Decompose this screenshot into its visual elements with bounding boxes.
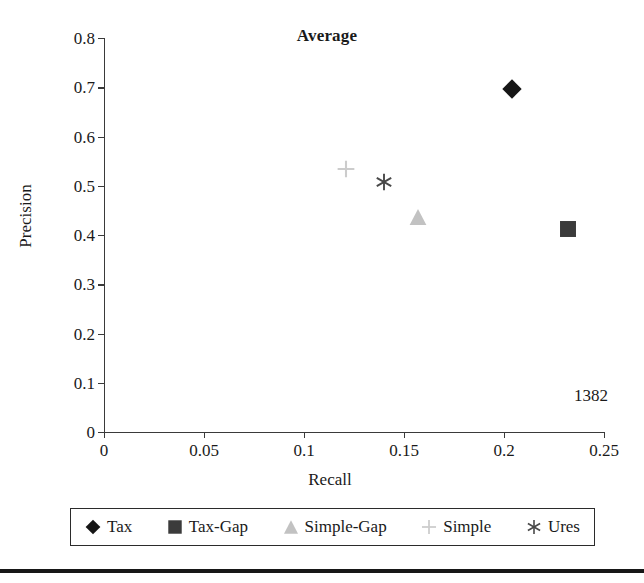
x-axis-tick-label: 0.2 (493, 442, 514, 459)
legend-item-simple-gap[interactable]: Simple-Gap (283, 517, 387, 537)
y-axis-tick (98, 383, 104, 384)
x-axis-tick (404, 432, 405, 438)
x-axis-tick-label: 0 (100, 442, 109, 459)
asterisk-marker-icon (526, 519, 542, 535)
y-axis-tick-label: 0.8 (74, 30, 95, 47)
diamond-marker-icon (85, 519, 101, 535)
legend-item-label: Tax-Gap (189, 517, 248, 537)
y-axis-line (104, 38, 105, 432)
plot-area: 00.10.20.30.40.50.60.70.8 00.050.10.150.… (104, 38, 604, 432)
y-axis-tick-label: 0.1 (74, 374, 95, 391)
legend-item-label: Simple (443, 517, 491, 537)
y-axis-tick-label: 0 (87, 424, 96, 441)
x-axis-tick-label: 0.05 (189, 442, 219, 459)
x-axis-tick-label: 0.25 (589, 442, 619, 459)
legend-item-tax[interactable]: Tax (85, 517, 132, 537)
y-axis-tick-label: 0.6 (74, 128, 95, 145)
x-axis-title: Recall (0, 470, 644, 490)
bottom-rule (0, 569, 644, 573)
x-axis-tick (204, 432, 205, 438)
plus-marker-icon (421, 519, 437, 535)
chart-legend: TaxTax-GapSimple-GapSimpleUres (70, 508, 595, 546)
legend-item-label: Simple-Gap (305, 517, 387, 537)
y-axis-tick (98, 87, 104, 88)
y-axis-tick (98, 235, 104, 236)
legend-item-simple[interactable]: Simple (421, 517, 491, 537)
y-axis-tick (98, 334, 104, 335)
legend-item-ures[interactable]: Ures (526, 517, 580, 537)
y-axis-tick (98, 38, 104, 39)
data-point-tax-gap (559, 220, 578, 239)
square-marker-icon (167, 519, 183, 535)
y-axis-tick-label: 0.4 (74, 227, 95, 244)
y-axis-tick (98, 186, 104, 187)
page-number: 1382 (574, 386, 608, 406)
x-axis-tick (504, 432, 505, 438)
y-axis-tick-label: 0.2 (74, 325, 95, 342)
y-axis-tick-label: 0.7 (74, 79, 95, 96)
x-axis-tick-label: 0.15 (389, 442, 419, 459)
x-axis-tick (104, 432, 105, 438)
x-axis-tick (604, 432, 605, 438)
y-axis-title: Precision (16, 184, 36, 247)
triangle-marker-icon (283, 519, 299, 535)
data-point-simple-gap (409, 207, 428, 226)
legend-item-label: Ures (548, 517, 580, 537)
x-axis-tick-label: 0.1 (293, 442, 314, 459)
x-axis-line (104, 432, 604, 433)
data-point-ures (375, 172, 394, 191)
legend-item-label: Tax (107, 517, 132, 537)
data-point-simple (337, 160, 356, 179)
figure-container: Average Precision 00.10.20.30.40.50.60.7… (0, 0, 644, 583)
legend-item-tax-gap[interactable]: Tax-Gap (167, 517, 248, 537)
y-axis-tick (98, 137, 104, 138)
data-point-tax (502, 78, 523, 99)
y-axis-tick-label: 0.5 (74, 177, 95, 194)
x-axis-tick (304, 432, 305, 438)
y-axis-tick-label: 0.3 (74, 276, 95, 293)
y-axis-tick (98, 284, 104, 285)
